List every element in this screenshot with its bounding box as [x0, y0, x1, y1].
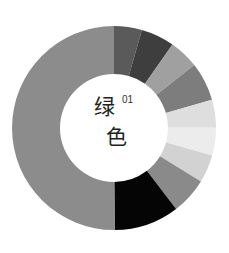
center-label: 绿 01 色: [86, 92, 146, 162]
center-title-char-1: 绿: [94, 97, 115, 118]
center-title-superscript: 01: [122, 94, 133, 105]
center-title-char-2: 色: [106, 127, 127, 148]
